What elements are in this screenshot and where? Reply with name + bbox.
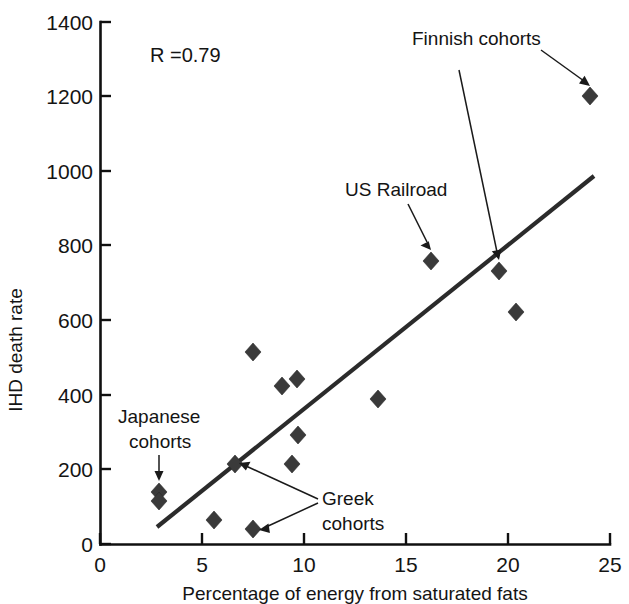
y-tick-label-200: 200 xyxy=(58,458,93,481)
y-axis-title: IHD death rate xyxy=(5,288,26,412)
annotation-greek-line1: Greek xyxy=(322,488,374,509)
plot-area: 1400 1200 1000 800 600 400 200 0 0 5 10 … xyxy=(0,0,629,604)
y-tick-label-0: 0 xyxy=(81,533,93,556)
x-tick-label-15: 15 xyxy=(394,553,417,576)
y-tick-label-800: 800 xyxy=(58,234,93,257)
annotation-finnish: Finnish cohorts xyxy=(412,28,541,49)
scatter-chart: 1400 1200 1000 800 600 400 200 0 0 5 10 … xyxy=(0,0,629,604)
x-tick-label-0: 0 xyxy=(94,553,106,576)
correlation-label: R =0.79 xyxy=(150,44,221,66)
y-tick-label-1200: 1200 xyxy=(46,85,93,108)
x-tick-label-25: 25 xyxy=(598,553,621,576)
annotation-greek-line2: cohorts xyxy=(322,513,384,534)
annotation-japanese-line2: cohorts xyxy=(129,431,191,452)
x-tick-label-5: 5 xyxy=(196,553,208,576)
chart-background xyxy=(0,0,629,604)
y-tick-label-1400: 1400 xyxy=(46,11,93,34)
y-tick-label-400: 400 xyxy=(58,384,93,407)
x-axis-title: Percentage of energy from saturated fats xyxy=(182,583,527,604)
x-tick-label-20: 20 xyxy=(496,553,519,576)
x-tick-label-10: 10 xyxy=(292,553,315,576)
y-tick-label-1000: 1000 xyxy=(46,160,93,183)
y-tick-label-600: 600 xyxy=(58,309,93,332)
annotation-us-railroad: US Railroad xyxy=(345,179,447,200)
annotation-japanese-line1: Japanese xyxy=(118,406,200,427)
